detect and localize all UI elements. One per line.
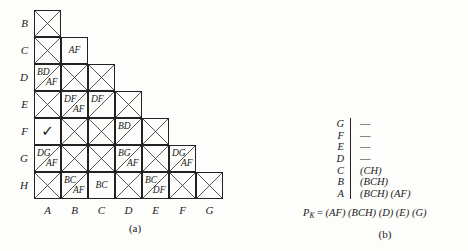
col-label-G: G xyxy=(196,204,223,216)
plist-value: — xyxy=(351,118,371,129)
cell-label-upper: DG xyxy=(172,149,186,159)
matrix-cell-HA xyxy=(34,172,61,199)
prime-implicant-list: G—F—E—D—C(CH)B(BCH)A(BCH) (AF) xyxy=(322,118,410,199)
cell-label-lower: AF xyxy=(73,105,85,115)
matrix-cell-HD xyxy=(115,172,142,199)
row-label-E: E xyxy=(8,98,28,110)
cell-label-lower: AF xyxy=(46,78,58,88)
plist-value: (BCH) (AF) xyxy=(351,188,410,199)
cell-label-lower: AF xyxy=(127,159,139,169)
plist-key: E xyxy=(322,141,350,152)
matrix-cell-GC xyxy=(88,145,115,172)
plist-value: — xyxy=(351,141,371,152)
cell-label: BC xyxy=(95,181,107,191)
matrix-cell-EB: DFAF xyxy=(61,91,88,118)
cell-label-lower: DF xyxy=(153,186,166,196)
col-label-A: A xyxy=(34,204,61,216)
cell-label-upper: BD xyxy=(118,122,131,132)
plist-key: G xyxy=(322,118,350,129)
cell-label-upper: BC xyxy=(145,176,157,186)
matrix-cell-HC: BC xyxy=(88,172,115,199)
plist-row-B: B(BCH) xyxy=(322,176,410,188)
plist-row-C: C(CH) xyxy=(322,164,410,176)
row-label-G: G xyxy=(8,152,28,164)
cell-label-upper: DG xyxy=(37,149,51,159)
plist-row-A: A(BCH) (AF) xyxy=(322,188,410,200)
matrix-cell-DB xyxy=(61,64,88,91)
formula-pk: PK = (AF) (BCH) (D) (E) (G) xyxy=(303,207,426,220)
plist-value: — xyxy=(351,130,371,141)
caption-a: (a) xyxy=(110,222,160,234)
matrix-cell-GD: BGAF xyxy=(115,145,142,172)
row-label-B: B xyxy=(8,17,28,29)
matrix-cell-EA xyxy=(34,91,61,118)
matrix-cell-HF xyxy=(169,172,196,199)
matrix-cell-HE: BCDF xyxy=(142,172,169,199)
col-label-E: E xyxy=(142,204,169,216)
matrix-cell-FB xyxy=(61,118,88,145)
matrix-cell-GF: DGAF xyxy=(169,145,196,172)
col-label-D: D xyxy=(115,204,142,216)
plist-key: D xyxy=(322,153,350,164)
cell-label-upper: DF xyxy=(64,95,77,105)
formula-value: (AF) (BCH) (D) (E) (G) xyxy=(326,207,427,218)
cell-label-upper: DF xyxy=(91,95,104,105)
matrix-cell-HB: BCAF xyxy=(61,172,88,199)
col-label-B: B xyxy=(61,204,88,216)
cell-label-upper: BG xyxy=(118,149,131,159)
cell-label-lower: AF xyxy=(73,186,85,196)
matrix-cell-BA xyxy=(34,10,61,37)
matrix-cell-GA: DGAF xyxy=(34,145,61,172)
row-label-F: F xyxy=(8,125,28,137)
matrix-cell-FA: ✓ xyxy=(34,118,61,145)
col-label-C: C xyxy=(88,204,115,216)
plist-value: — xyxy=(351,153,371,164)
formula-equals: = xyxy=(314,207,325,218)
plist-key: F xyxy=(322,130,350,141)
matrix-cell-FD: BD xyxy=(115,118,142,145)
matrix-cell-GB xyxy=(61,145,88,172)
plist-row-E: E— xyxy=(322,141,410,153)
plist-key: A xyxy=(322,188,350,199)
matrix-cell-CA xyxy=(34,37,61,64)
matrix-cell-FE xyxy=(142,118,169,145)
cell-label-upper: BD xyxy=(37,68,50,78)
cell-label-lower: AF xyxy=(181,159,193,169)
matrix-cell-DA: BDAF xyxy=(34,64,61,91)
matrix-cell-FC xyxy=(88,118,115,145)
row-label-H: H xyxy=(8,179,28,191)
matrix-cell-ED xyxy=(115,91,142,118)
matrix-cell-DC xyxy=(88,64,115,91)
figure-root: AFBDAFDFAFDF✓BDDGAFBGAFDGAFBCAFBCBCDF BC… xyxy=(0,0,468,251)
cell-label-lower: AF xyxy=(46,159,58,169)
plist-key: B xyxy=(322,176,350,187)
plist-value: (BCH) xyxy=(351,176,388,187)
matrix-cell-CB: AF xyxy=(61,37,88,64)
caption-b: (b) xyxy=(360,228,410,240)
row-label-D: D xyxy=(8,71,28,83)
cell-label: AF xyxy=(69,46,81,56)
matrix-cell-EC: DF xyxy=(88,91,115,118)
matrix-cell-GE xyxy=(142,145,169,172)
plist-row-F: F— xyxy=(322,130,410,142)
cell-label-upper: BC xyxy=(64,176,76,186)
plist-value: (CH) xyxy=(351,165,382,176)
plist-key: C xyxy=(322,165,350,176)
plist-row-D: D— xyxy=(322,153,410,165)
matrix-cell-HG xyxy=(196,172,223,199)
row-label-C: C xyxy=(8,44,28,56)
plist-row-G: G— xyxy=(322,118,410,130)
col-label-F: F xyxy=(169,204,196,216)
check-icon: ✓ xyxy=(41,122,54,140)
